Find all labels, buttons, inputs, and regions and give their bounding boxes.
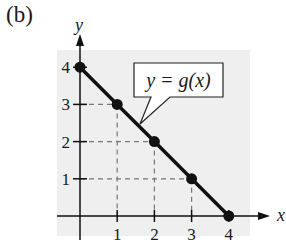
x-tick-label: 3 — [187, 225, 196, 244]
data-point — [149, 136, 160, 147]
y-axis-arrow-icon — [76, 34, 84, 46]
data-point — [186, 173, 197, 184]
function-graph: xy 12341234 y = g(x) — [0, 0, 286, 252]
data-point — [223, 211, 234, 222]
data-point — [75, 62, 86, 73]
x-tick-label: 2 — [150, 225, 159, 244]
y-tick-label: 1 — [62, 170, 71, 189]
y-tick-label: 4 — [62, 58, 71, 77]
y-tick-label: 3 — [62, 95, 71, 114]
x-tick-label: 1 — [113, 225, 122, 244]
y-tick-label: 2 — [62, 133, 71, 152]
x-axis-arrow-icon — [258, 212, 270, 220]
callout-label: y = g(x) — [144, 69, 211, 92]
x-axis-label: x — [276, 205, 285, 225]
y-axis-label: y — [73, 15, 83, 35]
data-point — [112, 99, 123, 110]
x-tick-label: 4 — [225, 225, 234, 244]
